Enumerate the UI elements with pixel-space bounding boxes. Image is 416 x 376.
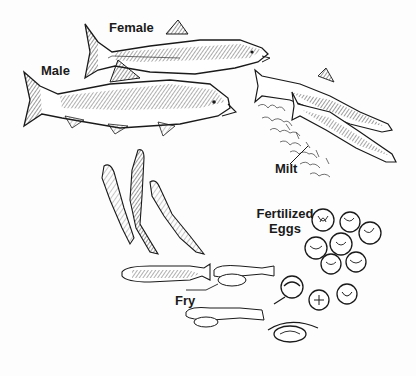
milt-label: Milt [275,161,297,176]
juvenile-fish-illustration [102,150,204,254]
fry-illustration [122,264,274,327]
fertilized-eggs-label: Fertilized Eggs [244,206,326,236]
fry-label: Fry [175,293,195,308]
diagram-artwork [0,0,416,376]
male-label: Male [41,63,70,78]
fertilized-eggs-label-line2: Eggs [244,221,326,236]
hatching-eggs-illustration [268,276,357,342]
female-label: Female [109,20,154,35]
salmon-lifecycle-diagram: Female Male Milt Fertilized Eggs Fry [0,0,416,376]
fertilized-eggs-label-line1: Fertilized [244,206,326,221]
